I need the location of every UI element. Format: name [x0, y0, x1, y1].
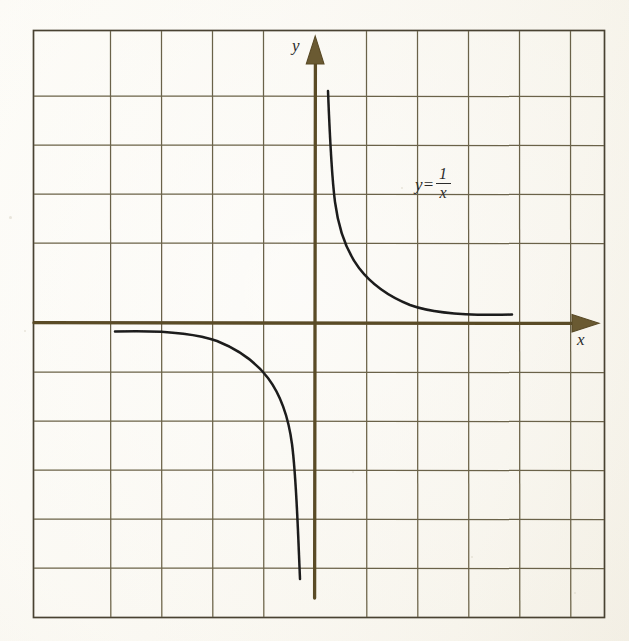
equation-annotation: y = 1 x: [415, 167, 451, 202]
equation-equals-sign: =: [424, 175, 434, 195]
fraction-numerator: 1: [436, 166, 450, 183]
hyperbola-branch-negative: [115, 331, 300, 579]
y-axis-arrowhead: [306, 36, 324, 64]
scan-speck: [24, 330, 26, 332]
x-axis-label: x: [577, 330, 585, 350]
fraction-denominator: x: [437, 184, 450, 201]
scan-speck: [574, 592, 576, 594]
scan-speck: [9, 216, 12, 219]
equation-fraction: 1 x: [436, 166, 451, 201]
scan-speck: [401, 187, 403, 189]
graph-figure: [0, 0, 629, 641]
hyperbola-branch-positive: [328, 91, 512, 315]
equation-lhs: y: [415, 175, 423, 195]
y-axis-label: y: [292, 36, 300, 56]
scanned-page: y x y = 1 x: [0, 0, 629, 641]
scan-speck: [471, 556, 473, 558]
scan-speck: [352, 471, 354, 473]
y-axis: [306, 36, 324, 598]
